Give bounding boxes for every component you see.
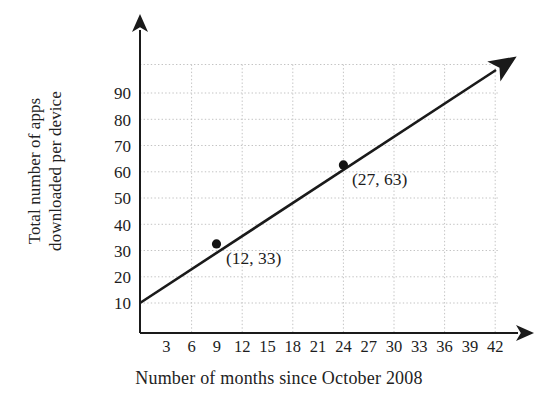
x-tick-label: 3 bbox=[162, 337, 170, 356]
x-tick-label: 27 bbox=[360, 337, 377, 356]
x-tick-label: 9 bbox=[213, 337, 221, 356]
x-tick-label: 39 bbox=[462, 337, 479, 356]
x-tick-label: 12 bbox=[234, 337, 251, 356]
x-tick-label: 21 bbox=[310, 337, 327, 356]
x-tick-label: 36 bbox=[436, 337, 453, 356]
x-tick-labels: 3 6 9 12 15 18 21 24 27 30 33 36 39 42 bbox=[162, 337, 503, 356]
x-tick-label: 33 bbox=[411, 337, 428, 356]
y-tick-label: 40 bbox=[114, 216, 131, 235]
y-tick-label: 80 bbox=[114, 111, 131, 130]
y-tick-labels: 10 20 30 40 50 60 70 80 90 bbox=[114, 84, 131, 313]
x-tick-label: 15 bbox=[259, 337, 276, 356]
x-tick-label: 30 bbox=[386, 337, 403, 356]
y-tick-label: 20 bbox=[114, 268, 131, 287]
x-tick-label: 18 bbox=[285, 337, 302, 356]
point-annotation-27-63: (27, 63) bbox=[352, 169, 408, 189]
x-tick-label: 42 bbox=[487, 337, 504, 356]
chart-canvas: 10 20 30 40 50 60 70 80 90 3 6 9 12 15 1… bbox=[0, 0, 558, 404]
y-tick-label: 50 bbox=[114, 189, 131, 208]
y-tick-label: 90 bbox=[114, 84, 131, 103]
x-axis-title: Number of months since October 2008 bbox=[0, 368, 558, 389]
line-graph-figure: 10 20 30 40 50 60 70 80 90 3 6 9 12 15 1… bbox=[0, 0, 558, 404]
y-axis-title-line-1: Total number of apps bbox=[25, 98, 46, 245]
data-point-27-63 bbox=[339, 160, 348, 169]
y-axis-title: Total number of apps downloaded per devi… bbox=[14, 46, 78, 296]
y-tick-label: 60 bbox=[114, 163, 131, 182]
x-tick-label: 24 bbox=[335, 337, 352, 356]
x-tick-label: 6 bbox=[187, 337, 195, 356]
point-annotation-12-33: (12, 33) bbox=[226, 248, 282, 268]
data-line bbox=[140, 70, 496, 303]
data-point-12-33 bbox=[212, 239, 221, 248]
y-tick-label: 10 bbox=[114, 294, 131, 313]
y-tick-label: 70 bbox=[114, 137, 131, 156]
y-axis-title-line-2: downloaded per device bbox=[46, 91, 67, 251]
y-tick-label: 30 bbox=[114, 242, 131, 261]
